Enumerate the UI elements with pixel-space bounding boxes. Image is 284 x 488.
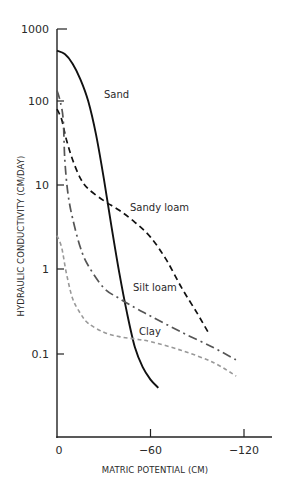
curve-silt-loam [57, 91, 236, 361]
curve-sandy-loam [57, 109, 208, 332]
label-sand: Sand [104, 89, 129, 100]
label-silt-loam: Silt loam [133, 282, 177, 293]
hydraulic-conductivity-chart: 10001001010.1 0−60−120 MATRIC POTENTIAL … [0, 0, 284, 488]
x-tick-label: −120 [229, 444, 259, 457]
y-tick-label: 1 [42, 263, 49, 276]
curve-sand [57, 51, 158, 388]
curves [57, 51, 236, 388]
x-tick-label: 0 [56, 444, 63, 457]
y-tick-label: 1000 [21, 23, 49, 36]
x-tick-label: −60 [139, 444, 162, 457]
curve-labels: SandSandy loamSilt loamClay [104, 89, 189, 337]
label-sandy-loam: Sandy loam [130, 202, 189, 213]
x-axis-title: MATRIC POTENTIAL (CM) [102, 465, 208, 475]
y-axis-title: HYDRAULIC CONDUCTIVITY (CM/DAY) [16, 155, 26, 316]
label-clay: Clay [139, 326, 161, 337]
x-axis-ticks: 0−60−120 [56, 429, 260, 457]
y-tick-label: 10 [35, 179, 49, 192]
y-tick-label: 0.1 [32, 348, 50, 361]
curve-clay [57, 236, 236, 377]
y-axis-ticks: 10001001010.1 [21, 23, 67, 361]
y-tick-label: 100 [28, 95, 49, 108]
